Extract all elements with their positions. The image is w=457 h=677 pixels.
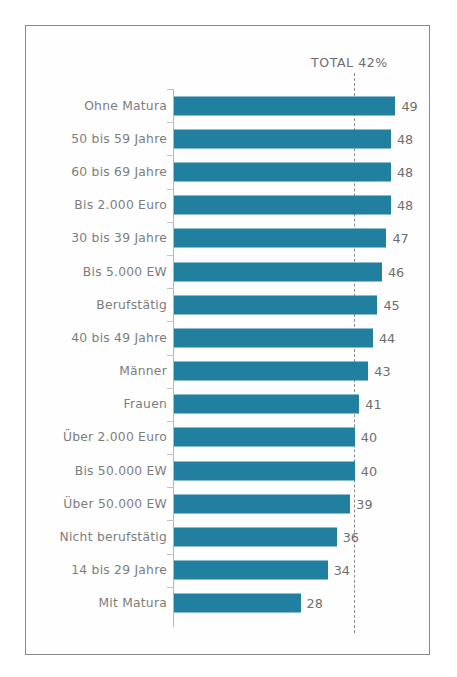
total-reference-label: TOTAL 42%	[311, 55, 388, 70]
bar-group: 47	[174, 229, 409, 248]
bar-row: 14 bis 29 Jahre34	[26, 554, 429, 587]
bar-group: 45	[174, 295, 400, 314]
bar-value-label: 41	[365, 397, 381, 412]
bar-row: Mit Matura28	[26, 587, 429, 620]
bar-value-label: 47	[392, 231, 408, 246]
bar-value-label: 34	[334, 563, 350, 578]
axis-tick	[167, 454, 174, 455]
bar-group: 44	[174, 328, 395, 347]
axis-tick	[167, 421, 174, 422]
bar-group: 49	[174, 96, 418, 115]
category-label: 60 bis 69 Jahre	[71, 165, 167, 179]
category-label: Berufstätig	[96, 298, 167, 312]
bar	[174, 428, 355, 447]
bar	[174, 461, 355, 480]
plot-area: TOTAL 42% Ohne Matura4950 bis 59 Jahre48…	[26, 26, 429, 654]
bar-group: 40	[174, 461, 377, 480]
bar-row: 40 bis 49 Jahre44	[26, 321, 429, 354]
bar-group: 36	[174, 528, 359, 547]
axis-tick	[167, 554, 174, 555]
bar	[174, 262, 382, 281]
bar	[174, 328, 373, 347]
bar-row: Über 50.000 EW39	[26, 487, 429, 520]
bar-group: 28	[174, 594, 323, 613]
bar-row: Nicht berufstätig36	[26, 520, 429, 553]
axis-tick	[167, 155, 174, 156]
category-label: Bis 50.000 EW	[75, 464, 167, 478]
bar-group: 34	[174, 561, 350, 580]
bar-group: 46	[174, 262, 404, 281]
bar-value-label: 46	[388, 264, 404, 279]
category-label: 30 bis 39 Jahre	[71, 231, 167, 245]
bar-value-label: 40	[361, 430, 377, 445]
bar-value-label: 39	[356, 496, 372, 511]
axis-tick	[167, 122, 174, 123]
bar-row: 30 bis 39 Jahre47	[26, 222, 429, 255]
chart-frame: TOTAL 42% Ohne Matura4950 bis 59 Jahre48…	[25, 25, 430, 655]
category-label: 14 bis 29 Jahre	[71, 563, 167, 577]
bar-value-label: 44	[379, 330, 395, 345]
bar-group: 39	[174, 494, 373, 513]
bar-row: 50 bis 59 Jahre48	[26, 122, 429, 155]
bar-group: 40	[174, 428, 377, 447]
category-label: Bis 5.000 EW	[83, 265, 167, 279]
axis-tick	[167, 89, 174, 90]
bar-value-label: 40	[361, 463, 377, 478]
axis-tick	[167, 487, 174, 488]
bar	[174, 561, 328, 580]
bar	[174, 594, 301, 613]
bar	[174, 96, 395, 115]
bar-row: Männer43	[26, 355, 429, 388]
bar-row: Bis 5.000 EW46	[26, 255, 429, 288]
bar-value-label: 49	[401, 98, 417, 113]
bar-row: Frauen41	[26, 388, 429, 421]
bar-value-label: 45	[383, 297, 399, 312]
category-label: Nicht berufstätig	[59, 530, 167, 544]
axis-tick	[167, 321, 174, 322]
bar-row: 60 bis 69 Jahre48	[26, 155, 429, 188]
category-label: Bis 2.000 Euro	[74, 198, 167, 212]
category-label: Über 50.000 EW	[63, 497, 167, 511]
category-label: 50 bis 59 Jahre	[71, 132, 167, 146]
bar-row: Bis 2.000 Euro48	[26, 189, 429, 222]
bar-value-label: 48	[397, 198, 413, 213]
bar	[174, 528, 337, 547]
category-label: Mit Matura	[98, 596, 167, 610]
category-label: Frauen	[124, 397, 167, 411]
axis-tick	[167, 355, 174, 356]
bar-rows: Ohne Matura4950 bis 59 Jahre4860 bis 69 …	[26, 89, 429, 620]
bar	[174, 229, 386, 248]
bar-row: Über 2.000 Euro40	[26, 421, 429, 454]
bar	[174, 395, 359, 414]
bar	[174, 196, 391, 215]
category-label: Ohne Matura	[84, 99, 167, 113]
category-label: Über 2.000 Euro	[63, 430, 167, 444]
bar-group: 48	[174, 129, 413, 148]
bar-value-label: 28	[307, 596, 323, 611]
axis-tick	[167, 222, 174, 223]
axis-tick	[167, 520, 174, 521]
category-label: 40 bis 49 Jahre	[71, 331, 167, 345]
bar-value-label: 48	[397, 131, 413, 146]
bar-row: Bis 50.000 EW40	[26, 454, 429, 487]
bar	[174, 362, 368, 381]
bar	[174, 295, 377, 314]
bar-value-label: 48	[397, 164, 413, 179]
bar-group: 48	[174, 196, 413, 215]
category-label: Männer	[119, 364, 167, 378]
bar	[174, 494, 350, 513]
bar-group: 43	[174, 362, 391, 381]
bar-row: Berufstätig45	[26, 288, 429, 321]
bar-group: 48	[174, 162, 413, 181]
bar-row: Ohne Matura49	[26, 89, 429, 122]
axis-tick	[167, 288, 174, 289]
bar-value-label: 36	[343, 530, 359, 545]
bar	[174, 129, 391, 148]
axis-tick	[167, 189, 174, 190]
bar-value-label: 43	[374, 364, 390, 379]
axis-tick	[167, 255, 174, 256]
bar-group: 41	[174, 395, 382, 414]
bar	[174, 162, 391, 181]
axis-tick	[167, 587, 174, 588]
axis-tick	[167, 388, 174, 389]
